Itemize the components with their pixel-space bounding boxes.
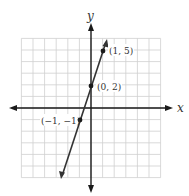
point-label-0-2: (0, 2) <box>97 82 121 92</box>
y-axis-label: y <box>86 9 94 23</box>
point-label-neg1-neg1: (−1, −1) <box>41 116 80 126</box>
y-axis-up-arrow-icon <box>88 23 94 31</box>
x-axis-left-arrow-icon <box>9 105 17 111</box>
line-top-arrow-icon <box>103 39 109 48</box>
point-label-1-5: (1, 5) <box>109 46 133 56</box>
point-1-5 <box>101 49 106 54</box>
coordinate-plane-chart: x y (1, 5) (0, 2) (−1, −1) <box>0 0 189 196</box>
line-series <box>59 39 109 179</box>
x-axis-label: x <box>177 101 184 115</box>
y-axis-down-arrow-icon <box>88 185 94 193</box>
plotted-line <box>62 42 106 176</box>
point-0-2 <box>89 84 94 89</box>
x-axis-right-arrow-icon <box>165 105 173 111</box>
